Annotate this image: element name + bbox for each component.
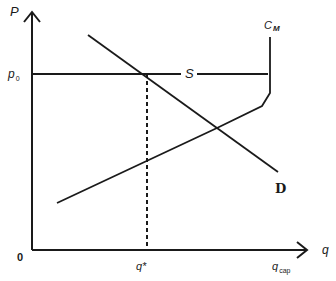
- x-axis-label: q: [322, 244, 329, 256]
- y-axis-label: P: [10, 5, 19, 18]
- price-level-main: p: [8, 67, 15, 81]
- q-star-label: q*: [136, 261, 146, 272]
- diagram-canvas: [0, 0, 336, 281]
- q-cap-label: qcap: [272, 261, 290, 272]
- origin-label: 0: [17, 252, 23, 263]
- marginal-cost-label: CM: [264, 20, 280, 31]
- q-cap-sub: cap: [279, 267, 290, 274]
- supply-curve-label: S: [185, 67, 194, 80]
- economics-diagram: P p0 S CM D 0 q* qcap q: [0, 0, 336, 281]
- marginal-cost-main: C: [264, 19, 272, 31]
- q-cap-main: q: [272, 260, 278, 272]
- demand-curve-label: D: [275, 182, 286, 195]
- marginal-cost-sub: M: [273, 24, 280, 33]
- price-level-label: p0: [8, 68, 20, 80]
- demand-curve: [88, 35, 278, 172]
- price-level-sub: 0: [16, 75, 20, 82]
- marginal-cost-curve: [57, 37, 270, 203]
